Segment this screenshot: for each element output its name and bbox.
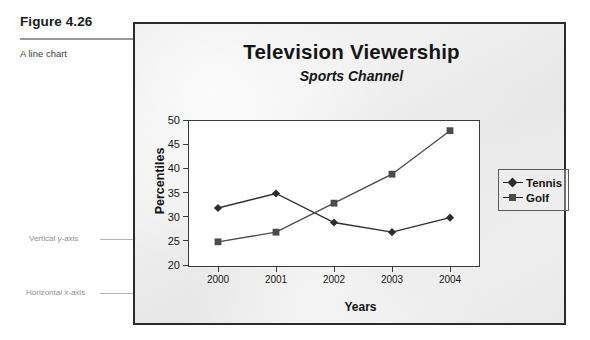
data-point-golf-2003 [389,171,396,178]
plot-series-svg [189,121,479,266]
data-point-tennis-2001 [272,189,280,197]
annotation-y-suffix: -axis [61,234,78,243]
y-axis-tick: 20 [168,259,188,271]
x-axis-tick-label: 2004 [430,274,470,285]
legend-item-tennis: Tennis [503,175,562,190]
annotation-y-prefix: Vertical [29,234,57,243]
y-axis-tick-label: 50 [168,114,180,126]
data-point-golf-2001 [273,229,280,236]
x-axis-tick-mark [392,267,393,272]
y-axis-tick-label: 35 [168,187,180,199]
data-point-tennis-2003 [388,228,396,236]
y-axis-tick: 40 [168,162,188,174]
x-axis-ticks: 20002001200220032004 [188,267,480,297]
plot-area [188,120,480,267]
data-point-tennis-2002 [330,218,338,226]
legend-marker-diamond-icon [503,177,523,189]
x-axis-tick-label: 2003 [372,274,412,285]
chart-legend: TennisGolf [498,169,569,211]
chart-title: Television Viewership [135,40,568,64]
figure-page: Figure 4.26 A line chart Vertical y-axis… [0,0,590,340]
annotation-vertical-y-axis: Vertical y-axis [29,234,78,243]
y-axis-tick-label: 30 [168,211,180,223]
figure-description: A line chart [20,48,67,59]
figure-caption: Figure 4.26 [20,14,130,29]
y-axis-tick: 35 [168,187,188,199]
data-point-tennis-2004 [446,214,454,222]
y-axis-tick-label: 45 [168,138,180,150]
y-axis-tick-label: 20 [168,259,180,271]
chart-frame: Television Viewership Sports Channel Per… [133,22,566,325]
legend-item-golf: Golf [503,190,562,205]
y-axis-tick: 30 [168,211,188,223]
chart-subtitle: Sports Channel [135,68,568,84]
data-point-tennis-2000 [214,204,222,212]
x-axis-tick-mark [450,267,451,272]
data-point-golf-2004 [447,127,454,134]
legend-label: Golf [526,192,549,204]
x-axis-tick-mark [218,267,219,272]
x-axis-tick-label: 2001 [256,274,296,285]
y-axis-tick-label: 40 [168,162,180,174]
y-axis-tick: 50 [168,114,188,126]
x-axis-tick-label: 2002 [314,274,354,285]
x-axis-tick-mark [276,267,277,272]
figure-number: Figure 4.26 [20,14,130,29]
y-axis-tick: 25 [168,235,188,247]
x-axis-title: Years [188,300,533,314]
legend-label: Tennis [526,177,562,189]
y-axis-tick-label: 25 [168,235,180,247]
data-point-golf-2002 [331,200,338,207]
caption-divider [20,38,133,40]
data-point-golf-2000 [215,238,222,245]
annotation-horizontal-x-axis: Horizontal x-axis [26,288,85,297]
y-axis-ticks: 50454035302520 [135,114,188,274]
annotation-x-prefix: Horizontal [26,288,64,297]
legend-marker-square-icon [503,192,523,204]
y-axis-tick: 45 [168,138,188,150]
x-axis-tick-mark [334,267,335,272]
x-axis-tick-label: 2000 [198,274,238,285]
annotation-x-suffix: -axis [68,288,85,297]
